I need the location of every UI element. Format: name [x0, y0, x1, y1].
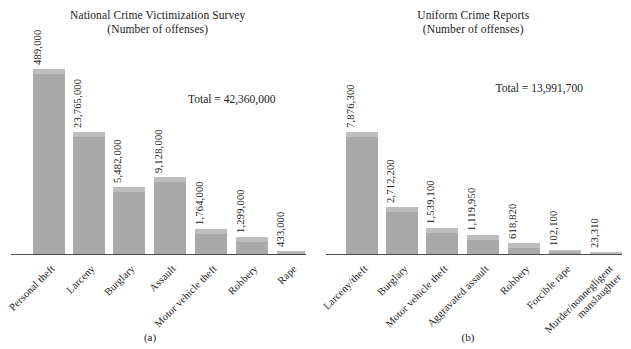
panel-a-title-block: National Crime Victimization Survey (Num… [0, 8, 316, 37]
panel-a-caption: (a) [0, 331, 300, 343]
category-label-rape: Rape [275, 263, 299, 287]
bar-value-larceny: 23,765,000 [72, 79, 83, 128]
bar-motor-vehicle-theft-ucr [426, 228, 458, 254]
category-label-robbery-ucr: Robbery [497, 263, 532, 298]
panel-b-title-block: Uniform Crime Reports (Number of offense… [316, 8, 631, 37]
bar-value-aggravated-assault: 1,119,950 [466, 188, 477, 231]
category-label-burglary: Burglary [102, 263, 137, 298]
category-label-larceny-theft: Larceny/theft [321, 263, 370, 312]
panel-b-x-axis [326, 254, 622, 255]
bar-value-robbery: 1,299,000 [235, 189, 246, 233]
bar-value-forcible-rape: 102,100 [548, 210, 559, 246]
bar-motor-vehicle-theft [195, 229, 227, 254]
bar-value-personal-theft: 489,000 [32, 29, 43, 65]
bar-robbery-ucr [508, 243, 540, 254]
bar-value-burglary: 5,482,000 [112, 139, 123, 183]
bar-rape [277, 251, 305, 254]
panel-b-title: Uniform Crime Reports [316, 8, 631, 22]
bar-value-motor-vehicle-theft-ucr: 1,539,100 [425, 180, 436, 224]
bar-burglary-ucr [386, 207, 418, 254]
bar-murder-manslaughter [590, 252, 622, 254]
bar-value-rape: 433,000 [275, 211, 286, 247]
category-label-personal-theft: Personal theft [7, 263, 58, 314]
panel-a-title: National Crime Victimization Survey [0, 8, 316, 22]
panel-a-subtitle: (Number of offenses) [0, 22, 316, 36]
bar-value-assault: 9,128,000 [153, 129, 164, 173]
category-label-robbery: Robbery [226, 263, 261, 298]
bar-forcible-rape [549, 250, 581, 254]
category-label-burglary-ucr: Burglary [375, 263, 410, 298]
category-label-assault: Assault [147, 263, 178, 294]
panel-b-total-label: Total = 13,991,700 [496, 82, 583, 94]
bar-aggravated-assault [467, 235, 499, 254]
chart-panel-a: National Crime Victimization Survey (Num… [0, 0, 316, 349]
figure-two-bar-charts: National Crime Victimization Survey (Num… [0, 0, 631, 349]
bar-larceny [73, 132, 105, 254]
chart-panel-b: Uniform Crime Reports (Number of offense… [316, 0, 631, 349]
bar-assault [154, 177, 186, 254]
bar-value-murder-manslaughter: 23,310 [589, 218, 600, 248]
panel-b-caption: (b) [316, 331, 621, 343]
bar-value-motor-vehicle-theft: 1,764,000 [194, 181, 205, 225]
bar-larceny-theft [346, 132, 378, 254]
bar-value-larceny-theft: 7,876,300 [345, 84, 356, 128]
bar-value-burglary-ucr: 2,712,200 [385, 159, 396, 203]
bar-robbery [236, 237, 268, 254]
bar-value-robbery-ucr: 618,820 [507, 203, 518, 239]
panel-a-total-label: Total = 42,360,000 [188, 93, 275, 105]
panel-a-x-axis [11, 254, 306, 255]
panel-b-subtitle: (Number of offenses) [316, 22, 631, 36]
bar-personal-theft [33, 69, 65, 254]
bar-burglary [113, 187, 145, 254]
category-label-larceny: Larceny [64, 263, 97, 296]
